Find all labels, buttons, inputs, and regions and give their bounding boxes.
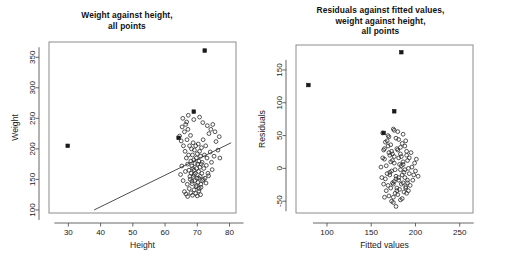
data-point	[414, 169, 418, 173]
data-point	[193, 162, 197, 166]
data-point	[416, 174, 420, 178]
data-point	[399, 168, 403, 172]
data-point	[218, 156, 222, 160]
data-point	[200, 146, 204, 150]
y-tick-label: 300	[28, 81, 37, 95]
data-point	[184, 123, 188, 127]
data-point	[181, 179, 185, 183]
data-point-outlier	[400, 50, 404, 54]
data-point	[384, 189, 388, 193]
data-point	[185, 182, 189, 186]
chart-panel-right: Residuals against fitted values, weight …	[254, 0, 507, 264]
y-tick-label: 150	[275, 63, 284, 77]
data-point	[389, 186, 393, 190]
scatter-plot-residuals-vs-fitted: 100150200250Fitted values-50050100150Res…	[254, 0, 507, 264]
series-residuals	[379, 127, 420, 208]
x-axis-title: Height	[130, 240, 155, 250]
data-point	[384, 164, 388, 168]
data-point	[210, 168, 214, 172]
x-tick-label: 30	[64, 228, 73, 237]
x-tick-label: 250	[453, 228, 467, 237]
data-point	[187, 187, 191, 191]
data-point	[197, 189, 201, 193]
x-tick-label: 200	[409, 228, 423, 237]
data-point	[383, 195, 387, 199]
data-point	[201, 121, 205, 125]
data-point	[189, 134, 193, 138]
scatter-plot-weight-vs-height: 304050607080Height100150200250300350Weig…	[0, 0, 254, 264]
x-tick-label: 150	[365, 228, 379, 237]
data-point	[191, 153, 195, 157]
data-point	[200, 171, 204, 175]
data-point-outlier	[382, 131, 386, 135]
data-point	[179, 173, 183, 177]
y-tick-label: 350	[28, 50, 37, 64]
data-point	[396, 130, 400, 134]
data-point	[413, 161, 417, 165]
data-point	[401, 160, 405, 164]
data-point	[187, 153, 191, 157]
data-point	[401, 132, 405, 136]
data-point-outlier	[192, 110, 196, 114]
data-point	[185, 120, 189, 124]
series-flagged-outliers	[66, 49, 207, 148]
data-point	[204, 144, 208, 148]
data-point	[186, 127, 190, 131]
data-point	[405, 149, 409, 153]
data-point	[183, 170, 187, 174]
data-point	[403, 144, 407, 148]
data-point	[387, 194, 391, 198]
x-tick-label: 40	[96, 228, 105, 237]
data-point	[411, 178, 415, 182]
data-point	[404, 139, 408, 143]
y-tick-label: 50	[275, 131, 284, 140]
data-point	[379, 165, 383, 169]
data-point	[198, 115, 202, 119]
data-point	[204, 181, 208, 185]
data-point	[405, 153, 409, 157]
data-point	[192, 118, 196, 122]
data-point	[391, 195, 395, 199]
data-point	[180, 125, 184, 129]
data-point	[382, 182, 386, 186]
data-point	[414, 157, 418, 161]
data-point	[182, 144, 186, 148]
data-point	[380, 176, 384, 180]
data-point	[407, 172, 411, 176]
y-tick-label: 100	[28, 203, 37, 217]
data-point	[209, 127, 213, 131]
data-point	[185, 138, 189, 142]
data-point	[394, 205, 398, 209]
x-tick-label: 50	[128, 228, 137, 237]
x-tick-label: 80	[225, 228, 234, 237]
data-point	[406, 181, 410, 185]
data-point-outlier	[203, 49, 207, 53]
y-tick-label: 250	[28, 111, 37, 125]
data-point	[183, 149, 187, 153]
data-point-outlier	[177, 136, 181, 140]
data-point	[183, 130, 187, 134]
x-tick-label: 60	[161, 228, 170, 237]
data-point-outlier	[307, 83, 311, 87]
data-point	[205, 124, 209, 128]
data-point-outlier	[66, 144, 70, 148]
y-tick-label: 150	[28, 172, 37, 186]
data-point-outlier	[392, 109, 396, 113]
data-point	[181, 116, 185, 120]
data-point	[204, 163, 208, 167]
data-point	[217, 135, 221, 139]
data-point	[212, 154, 216, 158]
data-point	[214, 140, 218, 144]
chart-panel-left: Weight against height, all points 304050…	[0, 0, 254, 264]
data-point	[207, 132, 211, 136]
y-axis-title: Weight	[10, 114, 20, 141]
data-point	[211, 123, 215, 127]
x-axis-title: Fitted values	[360, 240, 409, 250]
data-point	[201, 138, 205, 142]
y-tick-label: -50	[275, 195, 284, 207]
data-point	[186, 113, 190, 117]
data-point	[210, 160, 214, 164]
data-point	[213, 130, 217, 134]
series-observations	[178, 113, 222, 198]
y-tick-label: 0	[275, 166, 284, 171]
